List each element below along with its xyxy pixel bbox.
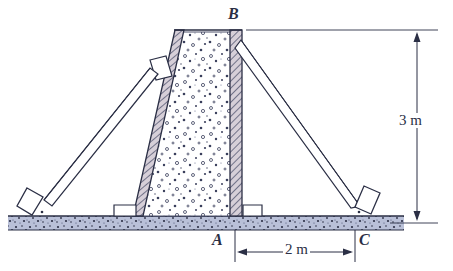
label-point-b: B <box>228 6 239 22</box>
ground-strip <box>8 216 404 230</box>
dimension-span-label: 2 m <box>283 242 310 257</box>
right-shoe <box>355 186 380 214</box>
left-base-cleat <box>114 205 136 216</box>
dimension-height-label: 3 m <box>397 113 424 128</box>
left-shoe <box>17 188 43 215</box>
right-base-cleat <box>243 205 262 216</box>
diagram-svg <box>0 0 453 271</box>
right-brace <box>235 40 360 208</box>
label-point-a: A <box>212 232 223 248</box>
figure-canvas: B A C 3 m 2 m <box>0 0 453 271</box>
right-form-panel <box>230 30 242 216</box>
label-point-c: C <box>359 232 370 248</box>
